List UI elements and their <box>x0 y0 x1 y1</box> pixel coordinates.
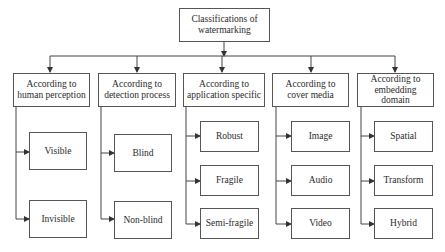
leaf-label: Hybrid <box>390 218 417 229</box>
leaf-robust: Robust <box>200 121 259 152</box>
root-node: Classifications of watermarking <box>179 8 270 42</box>
leaf-spatial: Spatial <box>374 121 433 152</box>
category-label: According to application specific <box>186 79 262 101</box>
leaf-label: Audio <box>309 175 333 186</box>
leaf-audio: Audio <box>291 165 350 196</box>
leaf-transform: Transform <box>374 165 433 196</box>
leaf-video: Video <box>291 208 350 239</box>
leaf-hybrid: Hybrid <box>374 208 433 239</box>
leaf-label: Blind <box>132 148 153 159</box>
leaf-image: Image <box>291 121 350 152</box>
category-label: According to detection process <box>101 79 173 101</box>
leaf-semi-fragile: Semi-fragile <box>200 208 259 239</box>
category-label: According to cover media <box>279 79 342 101</box>
leaf-label: Video <box>309 218 332 229</box>
leaf-label: Visible <box>45 146 72 157</box>
leaf-label: Image <box>309 131 333 142</box>
category-label: According to embedding domain <box>366 74 425 106</box>
leaf-label: Robust <box>216 131 243 142</box>
leaf-label: Semi-fragile <box>206 218 253 229</box>
leaf-non-blind: Non-blind <box>114 201 172 239</box>
leaf-label: Invisible <box>41 214 74 225</box>
leaf-label: Transform <box>384 175 424 186</box>
category-label: According to human perception <box>16 79 87 101</box>
leaf-blind: Blind <box>114 134 172 172</box>
leaf-label: Fragile <box>216 175 243 186</box>
root-label: Classifications of watermarking <box>186 14 263 36</box>
category-human-perception: According to human perception <box>13 73 90 107</box>
category-detection-process: According to detection process <box>98 73 176 107</box>
leaf-visible: Visible <box>29 132 87 170</box>
category-cover-media: According to cover media <box>272 73 349 107</box>
category-application-specific: According to application specific <box>183 73 265 107</box>
leaf-label: Non-blind <box>123 215 162 226</box>
category-embedding-domain: According to embedding domain <box>357 73 434 107</box>
leaf-invisible: Invisible <box>29 200 87 238</box>
leaf-label: Spatial <box>390 131 416 142</box>
leaf-fragile: Fragile <box>200 165 259 196</box>
